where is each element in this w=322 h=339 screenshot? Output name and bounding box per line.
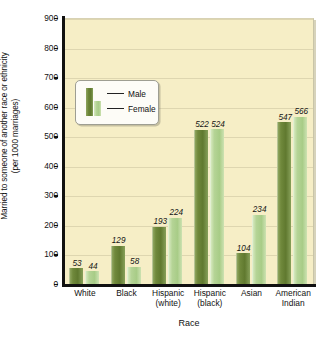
x-axis-title: Race	[64, 318, 314, 328]
bar-group: 193224	[147, 18, 189, 284]
x-tick-line1: Asian	[241, 288, 262, 298]
y-axis-title: Married to someone of another race or et…	[0, 0, 21, 272]
bar-value-label: 566	[288, 107, 314, 116]
bar-chart-figure: Married to someone of another race or et…	[0, 0, 322, 339]
bar-value-label: 224	[163, 208, 189, 217]
x-tick-line1: White	[74, 288, 95, 298]
x-axis-tick-label: AmericanIndian	[263, 288, 322, 308]
bar-male: 547	[277, 122, 291, 284]
x-tick-line1: American	[275, 288, 310, 298]
bar-group: 104234	[231, 18, 273, 284]
y-axis-tick-mark	[54, 166, 58, 167]
legend-connector-female	[107, 108, 124, 109]
legend-connector-male	[107, 93, 124, 94]
bar-group: 522524	[189, 18, 231, 284]
y-axis-tick-mark	[54, 107, 58, 108]
bar-male: 53	[69, 268, 83, 284]
x-axis-tick-labels: WhiteBlackHispanic(white)Hispanic(black)…	[64, 288, 314, 314]
y-axis-tick-mark	[54, 48, 58, 49]
bar-female: 566	[293, 117, 307, 284]
x-axis-line	[62, 284, 316, 287]
bar-female: 224	[168, 218, 182, 284]
bar-male: 193	[152, 227, 166, 284]
bar-group: 5344	[64, 18, 106, 284]
bar-value-label: 524	[205, 120, 231, 129]
y-axis-tick-labels: 9008007006005004003002001000	[30, 18, 58, 284]
y-axis-tick-mark	[54, 18, 58, 19]
y-axis-line	[62, 16, 65, 286]
bar-male: 522	[194, 130, 208, 284]
bar-female: 234	[252, 215, 266, 284]
y-axis-title-line2: (per 1000 marriages)	[11, 0, 22, 272]
x-tick-line2: (black)	[180, 298, 240, 308]
bars-container: 534412958193224522524104234547566	[64, 18, 314, 284]
bar-group: 547566	[272, 18, 314, 284]
bar-value-label: 44	[80, 262, 106, 271]
y-axis-tick-mark	[54, 284, 58, 285]
chart-legend: Male Female	[75, 80, 159, 125]
y-axis-title-line1: Married to someone of another race or et…	[0, 52, 9, 219]
y-axis-tick-mark	[54, 77, 58, 78]
bar-value-label: 58	[122, 257, 148, 266]
y-axis-title-container: Married to someone of another race or et…	[0, 0, 30, 290]
bar-male: 104	[236, 253, 250, 284]
bar-female: 58	[127, 267, 141, 284]
y-axis-tick-mark	[54, 195, 58, 196]
bar-female: 44	[85, 271, 99, 284]
legend-label-female: Female	[128, 104, 156, 114]
legend-swatch-female	[94, 101, 101, 116]
x-tick-line1: Black	[116, 288, 136, 298]
x-tick-line2: Indian	[263, 298, 322, 308]
legend-swatch-male	[86, 88, 93, 116]
bar-value-label: 234	[247, 205, 273, 214]
legend-label-male: Male	[128, 89, 146, 99]
bar-value-label: 129	[106, 236, 132, 245]
y-axis-tick-mark	[54, 136, 58, 137]
y-axis-tick-mark	[54, 225, 58, 226]
bar-group: 12958	[106, 18, 148, 284]
y-axis-tick-mark	[54, 254, 58, 255]
bar-female: 524	[210, 129, 224, 284]
